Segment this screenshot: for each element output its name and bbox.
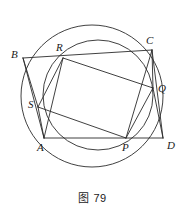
- point-label-d: D: [167, 140, 175, 151]
- segment-R-A: [44, 58, 63, 138]
- point-label-a: A: [37, 142, 44, 153]
- segment-C-D: [152, 50, 163, 138]
- inner-circle: [43, 40, 153, 150]
- geometry-figure: BRCQSAPD 图 79: [0, 0, 185, 215]
- segment-B-C: [23, 50, 152, 58]
- point-label-q: Q: [158, 83, 166, 94]
- point-label-p: P: [122, 142, 129, 153]
- segment-P-C: [126, 50, 152, 138]
- segment-S-P: [38, 107, 126, 138]
- point-label-s: S: [28, 99, 34, 110]
- point-label-r: R: [56, 42, 63, 53]
- segment-S-A: [38, 107, 44, 138]
- point-label-c: C: [146, 35, 153, 46]
- point-label-b: B: [11, 49, 18, 60]
- segment-R-S: [38, 58, 63, 107]
- segments-group: [23, 50, 163, 138]
- figure-caption: 图 79: [0, 189, 185, 205]
- segment-R-Q: [63, 58, 153, 88]
